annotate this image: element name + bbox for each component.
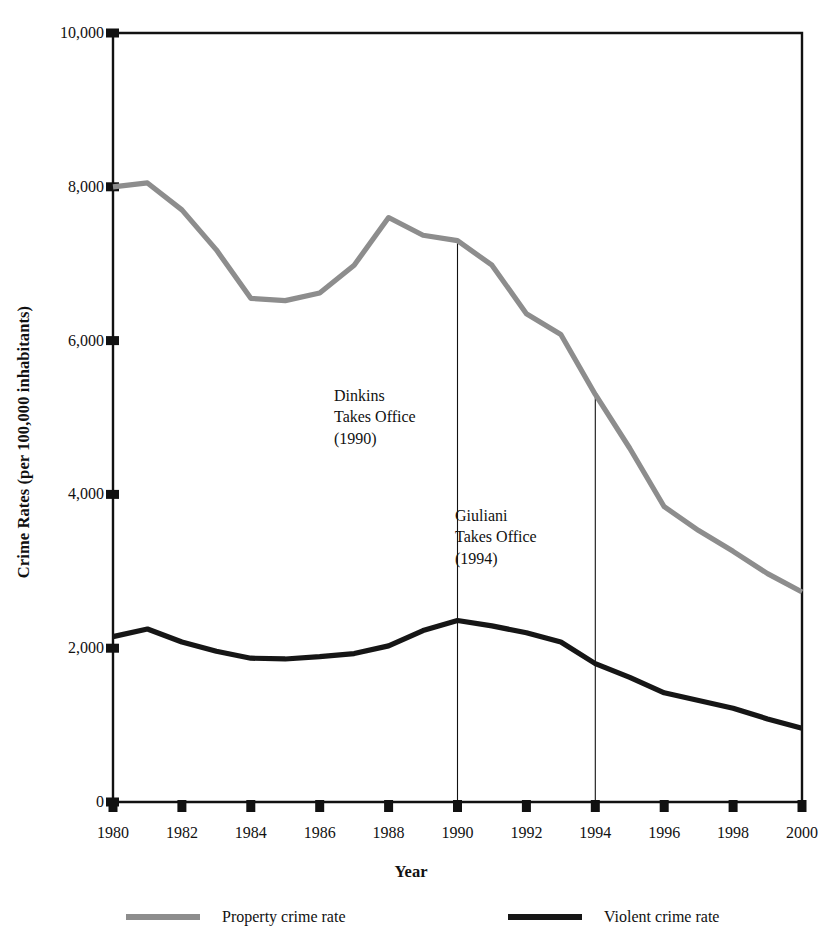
legend-swatch <box>508 914 582 920</box>
annotation-line: (1994) <box>455 548 537 569</box>
legend-label: Violent crime rate <box>604 908 719 926</box>
annotation-line: Takes Office <box>455 526 537 547</box>
annotation-line: Dinkins <box>334 385 416 406</box>
legend-item: Violent crime rate <box>508 908 719 926</box>
annotation-line: (1990) <box>334 428 416 449</box>
annotation-giuliani: GiulianiTakes Office(1994) <box>455 505 537 569</box>
annotation-line: Takes Office <box>334 406 416 427</box>
legend-swatch <box>126 914 200 920</box>
chart-legend: Property crime rateViolent crime rate <box>0 908 822 938</box>
plot-area <box>0 0 822 948</box>
axis-tick-marks <box>106 29 807 813</box>
annotation-line: Giuliani <box>455 505 537 526</box>
legend-item: Property crime rate <box>126 908 346 926</box>
crime-rates-line-chart: Crime Rates (per 100,000 inhabitants) 02… <box>0 0 822 948</box>
legend-label: Property crime rate <box>222 908 346 926</box>
annotation-dinkins: DinkinsTakes Office(1990) <box>334 385 416 449</box>
